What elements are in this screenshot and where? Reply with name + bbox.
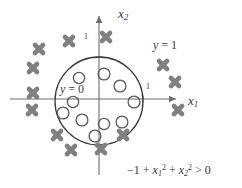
marker-x bbox=[97, 145, 105, 153]
x-axis-label-sub: 1 bbox=[194, 99, 199, 109]
marker-x bbox=[29, 64, 37, 72]
marker-x bbox=[174, 106, 182, 114]
marker-o bbox=[114, 80, 126, 92]
region-label-y1-eq: = 1 bbox=[158, 38, 177, 52]
marker-o bbox=[98, 118, 109, 129]
marker-x bbox=[171, 78, 179, 86]
marker-o bbox=[116, 116, 128, 128]
eq-plus: + bbox=[166, 163, 179, 177]
marker-x bbox=[29, 89, 37, 97]
eq-lead: −1 + bbox=[127, 163, 153, 177]
y-axis-label: x2 bbox=[118, 6, 128, 22]
marker-x bbox=[102, 33, 110, 41]
marker-x bbox=[35, 45, 43, 53]
region-label-y0-eq: = 0 bbox=[65, 82, 84, 96]
y-axis-label-sub: 2 bbox=[124, 12, 129, 22]
marker-x bbox=[53, 131, 61, 139]
y-axis-tick-label: 1 bbox=[84, 32, 88, 41]
x-axis-label: x1 bbox=[188, 93, 198, 109]
marker-x bbox=[65, 37, 73, 45]
decision-boundary-figure: x2 x1 1 1 y = 0 y = 1 −1 + x12 + x22 > 0 bbox=[0, 0, 242, 188]
region-label-y1: y = 1 bbox=[153, 38, 177, 53]
marker-x bbox=[119, 131, 127, 139]
marker-o bbox=[76, 114, 88, 126]
marker-x bbox=[28, 106, 36, 114]
marker-o bbox=[57, 107, 69, 119]
marker-o bbox=[128, 96, 140, 108]
boundary-equation: −1 + x12 + x22 > 0 bbox=[127, 163, 211, 178]
figure-canvas bbox=[0, 0, 242, 188]
x-axis-tick-label: 1 bbox=[146, 82, 150, 91]
marker-o bbox=[98, 68, 110, 80]
region-label-y0: y = 0 bbox=[60, 82, 84, 97]
marker-o bbox=[67, 96, 78, 107]
marker-x bbox=[159, 61, 167, 69]
eq-tail: > 0 bbox=[192, 163, 211, 177]
marker-x bbox=[67, 146, 75, 154]
